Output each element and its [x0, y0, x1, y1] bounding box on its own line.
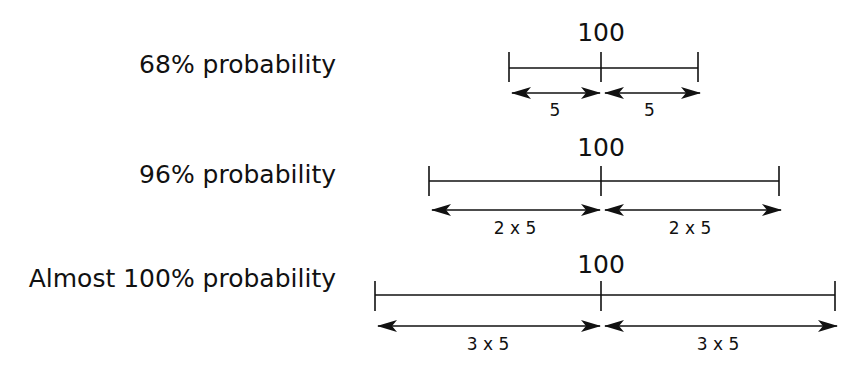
center-value-label: 100 [577, 250, 625, 279]
right-span-label: 2 x 5 [669, 218, 712, 238]
center-value-label: 100 [577, 18, 625, 47]
right-span-label: 5 [644, 100, 655, 120]
left-span-label: 5 [550, 100, 561, 120]
right-span-label: 3 x 5 [697, 334, 740, 354]
probability-label: 68% probability [139, 50, 336, 79]
center-value-label: 100 [577, 133, 625, 162]
probability-label: Almost 100% probability [29, 264, 336, 293]
left-span-label: 2 x 5 [494, 218, 537, 238]
probability-intervals-diagram [0, 0, 860, 371]
left-span-label: 3 x 5 [467, 334, 510, 354]
probability-label: 96% probability [139, 160, 336, 189]
